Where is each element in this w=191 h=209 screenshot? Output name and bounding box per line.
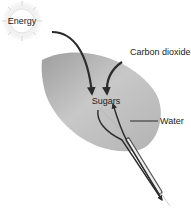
sugars-label: Sugars xyxy=(92,96,121,106)
photosynthesis-diagram: Energy Carbon dioxide Sugars Water xyxy=(0,0,191,209)
carbon-dioxide-label: Carbon dioxide xyxy=(130,47,191,57)
energy-label: Energy xyxy=(8,16,37,26)
water-label: Water xyxy=(160,116,184,126)
